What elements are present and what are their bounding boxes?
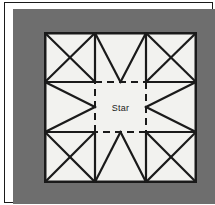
star-quilt-block: Star xyxy=(44,32,197,183)
quilt-block-figure: Star xyxy=(0,0,215,205)
background-mat: Star xyxy=(13,9,215,204)
figure-frame: Star xyxy=(4,2,213,203)
block-drawing xyxy=(44,32,197,183)
